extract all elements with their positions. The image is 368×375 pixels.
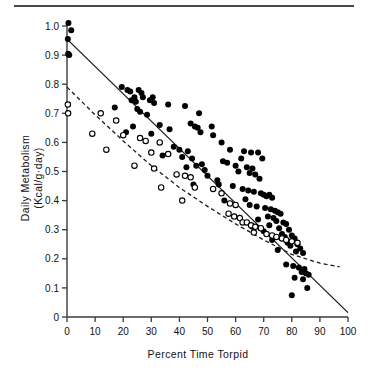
data-point-filled [256, 176, 262, 182]
data-point-open [251, 230, 256, 235]
y-tick-label: 0.9 [45, 50, 59, 61]
data-point-filled [233, 163, 239, 169]
data-point-filled [197, 129, 203, 135]
data-point-filled [304, 285, 310, 291]
data-point-open [283, 237, 288, 242]
data-point-filled [238, 155, 244, 161]
data-point-filled [219, 139, 225, 145]
data-point-open [90, 131, 95, 136]
data-point-open [158, 185, 163, 190]
data-point-open [149, 150, 154, 155]
data-point-open [143, 138, 148, 143]
x-tick-label: 100 [340, 326, 357, 337]
x-tick-label: 90 [314, 326, 326, 337]
data-point-filled [119, 84, 125, 90]
data-point-filled [65, 20, 71, 26]
data-point-open [137, 135, 142, 140]
data-point-filled [259, 155, 265, 161]
data-point-filled [244, 164, 250, 170]
data-point-filled [262, 205, 268, 211]
y-axis-title-line1: Daily Metabolism [19, 68, 32, 288]
data-point-filled [140, 94, 146, 100]
x-tick-label: 20 [118, 326, 130, 337]
data-point-filled [286, 227, 292, 233]
x-tick-label: 70 [258, 326, 270, 337]
data-point-filled [189, 155, 195, 161]
data-point-filled [185, 148, 191, 154]
data-point-filled [300, 276, 306, 282]
data-point-filled [221, 198, 227, 204]
y-tick-label: 0.5 [45, 166, 59, 177]
data-point-filled [148, 131, 154, 137]
data-point-filled [160, 152, 166, 158]
data-point-filled [216, 182, 222, 188]
y-tick-label: 0 [53, 312, 59, 323]
y-tick-label: 0.8 [45, 79, 59, 90]
data-point-filled [265, 214, 271, 220]
data-point-open [174, 172, 179, 177]
data-point-filled [251, 189, 257, 195]
data-point-filled [193, 163, 199, 169]
data-point-open [157, 140, 162, 145]
data-point-open [274, 234, 279, 239]
data-point-filled [150, 94, 156, 100]
y-tick-label: 0.3 [45, 224, 59, 235]
data-point-filled [247, 170, 253, 176]
data-point-filled [209, 123, 215, 129]
data-point-filled [224, 160, 230, 166]
data-point-filled [278, 211, 284, 217]
data-point-filled [66, 52, 72, 58]
data-point-filled [137, 109, 143, 115]
data-point-open [151, 166, 156, 171]
data-point-open [180, 198, 185, 203]
y-tick-label: 0.7 [45, 108, 59, 119]
y-tick-label: 0.6 [45, 137, 59, 148]
scatter-plot: 00.10.20.30.40.50.60.70.80.91.0010203040… [0, 0, 368, 375]
y-tick-label: 0.4 [45, 195, 59, 206]
data-point-filled [68, 27, 74, 33]
data-point-open [121, 132, 126, 137]
y-tick-label: 0.2 [45, 253, 59, 264]
data-point-open [104, 147, 109, 152]
data-point-filled [199, 161, 205, 167]
data-point-filled [182, 103, 188, 109]
data-point-filled [235, 169, 241, 175]
data-point-filled [230, 183, 236, 189]
data-point-open [253, 224, 258, 229]
data-point-open [65, 102, 70, 107]
data-point-filled [112, 104, 118, 110]
data-point-filled [266, 222, 272, 228]
x-tick-label: 40 [174, 326, 186, 337]
x-axis-title: Percent Time Torpid [0, 348, 368, 360]
data-point-filled [151, 100, 157, 106]
data-point-open [113, 118, 118, 123]
data-point-filled [202, 167, 208, 173]
data-point-filled [205, 173, 211, 179]
data-point-filled [127, 88, 133, 94]
data-point-filled [157, 122, 163, 128]
data-point-filled [248, 150, 254, 156]
data-point-filled [65, 36, 71, 42]
y-axis-title-line2: (Kcal/g·day) [32, 68, 45, 288]
data-point-open [295, 240, 300, 245]
y-tick-label: 1.0 [45, 21, 59, 32]
data-point-open [210, 186, 215, 191]
data-point-filled [241, 148, 247, 154]
data-point-filled [276, 225, 282, 231]
data-point-filled [130, 123, 136, 129]
data-point-filled [176, 147, 182, 153]
data-point-filled [242, 196, 248, 202]
data-point-filled [165, 102, 171, 108]
y-tick-label: 0.1 [45, 283, 59, 294]
data-point-filled [144, 112, 150, 118]
data-point-open [289, 239, 294, 244]
data-point-filled [275, 247, 281, 253]
data-point-filled [179, 154, 185, 160]
data-point-filled [255, 217, 261, 223]
data-point-filled [252, 171, 258, 177]
x-tick-label: 10 [90, 326, 102, 337]
data-point-open [132, 163, 137, 168]
data-point-open [182, 173, 187, 178]
data-point-filled [247, 202, 253, 208]
data-point-open [219, 191, 224, 196]
